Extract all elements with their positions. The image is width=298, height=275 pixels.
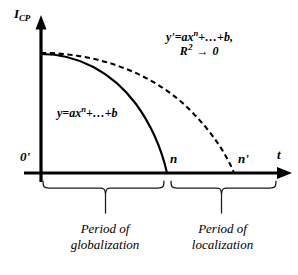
caption-period-of-localization: Period of localization <box>160 221 285 254</box>
brace-localization-path <box>171 181 276 194</box>
brace-globalization <box>43 181 164 213</box>
inner-eq-tail: +…+b <box>86 106 118 120</box>
x-axis-label: t <box>277 148 281 162</box>
x-axis-arrow-icon <box>277 167 292 179</box>
brace-globalization-path <box>43 181 164 194</box>
y-axis-label: ICP <box>14 7 30 21</box>
x-axis-group <box>24 167 292 179</box>
figure-root: ICP t 0' n n' y'=axn+…+b, R2 → 0 y=axn+…… <box>0 0 298 275</box>
brace-localization <box>171 181 276 213</box>
x-tick-label-n-prime: n' <box>238 152 249 166</box>
outer-curve-equation-line1: y'=axn+…+b, <box>166 30 233 44</box>
inner-curve-equation: y=axn+…+b <box>57 107 118 120</box>
outer-curve-equation: y'=axn+…+b, R2 → 0 <box>166 31 233 57</box>
inner-eq-head: y=ax <box>57 106 81 120</box>
r-squared-limit: → 0 <box>193 44 219 58</box>
caption-localization-line2: localization <box>192 237 253 252</box>
x-tick-label-n: n <box>170 152 177 166</box>
outer-eq-tail: +…+b, <box>198 30 233 44</box>
origin-label: 0' <box>20 150 30 164</box>
y-axis-arrow-icon <box>36 15 47 30</box>
outer-curve-equation-line2: R2 → 0 <box>166 45 233 58</box>
y-axis-group <box>36 15 47 182</box>
caption-localization-line1: Period of <box>198 221 247 236</box>
caption-globalization-line1: Period of <box>81 221 130 236</box>
y-axis-label-subscript: CP <box>19 13 30 23</box>
caption-period-of-globalization: Period of globalization <box>35 221 175 254</box>
caption-globalization-line2: globalization <box>71 237 140 252</box>
